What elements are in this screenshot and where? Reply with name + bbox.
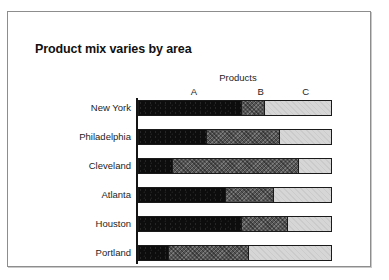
- bar-row[interactable]: Cleveland: [138, 158, 332, 174]
- bar-row[interactable]: Philadelphia: [138, 129, 332, 145]
- bar-row-label: Atlanta: [101, 189, 131, 200]
- bar-segment-c[interactable]: [298, 159, 331, 173]
- bar-segment-a[interactable]: [139, 130, 206, 144]
- figure-frame: Product mix varies by area Products ABC …: [7, 11, 371, 267]
- bar-row-label: Philadelphia: [79, 131, 131, 142]
- bar-segment-b[interactable]: [168, 246, 249, 260]
- bar-segment-b[interactable]: [172, 159, 299, 173]
- bar-segment-c[interactable]: [248, 246, 331, 260]
- bar-segment-a[interactable]: [139, 101, 241, 115]
- y-axis-line: [136, 98, 138, 264]
- bar-segment-c[interactable]: [279, 130, 331, 144]
- bar-segment-c[interactable]: [264, 101, 331, 115]
- bar-segment-a[interactable]: [139, 246, 168, 260]
- series-letter-labels: ABC: [136, 86, 332, 98]
- series-letter-a: A: [187, 86, 201, 97]
- bar-segment-c[interactable]: [273, 188, 331, 202]
- bar-row-label: New York: [91, 102, 131, 113]
- bar-row-label: Cleveland: [89, 160, 131, 171]
- series-letter-c: C: [299, 86, 313, 97]
- bar-row[interactable]: Houston: [138, 216, 332, 232]
- bar-segment-b[interactable]: [241, 217, 287, 231]
- bar-segment-b[interactable]: [225, 188, 273, 202]
- bar-segment-a[interactable]: [139, 188, 225, 202]
- series-letter-b: B: [254, 86, 268, 97]
- legend-caption: Products: [208, 72, 268, 83]
- bar-row-label: Houston: [96, 218, 131, 229]
- bar-row[interactable]: Atlanta: [138, 187, 332, 203]
- bar-segment-b[interactable]: [241, 101, 264, 115]
- bar-segment-a[interactable]: [139, 159, 172, 173]
- bar-segment-b[interactable]: [206, 130, 279, 144]
- bar-row[interactable]: New York: [138, 100, 332, 116]
- bar-segment-a[interactable]: [139, 217, 241, 231]
- bar-segment-c[interactable]: [287, 217, 331, 231]
- bar-row-label: Portland: [96, 247, 131, 258]
- chart-title: Product mix varies by area: [35, 42, 192, 56]
- bar-row[interactable]: Portland: [138, 245, 332, 261]
- plot-area: New YorkPhiladelphiaClevelandAtlantaHous…: [136, 98, 332, 264]
